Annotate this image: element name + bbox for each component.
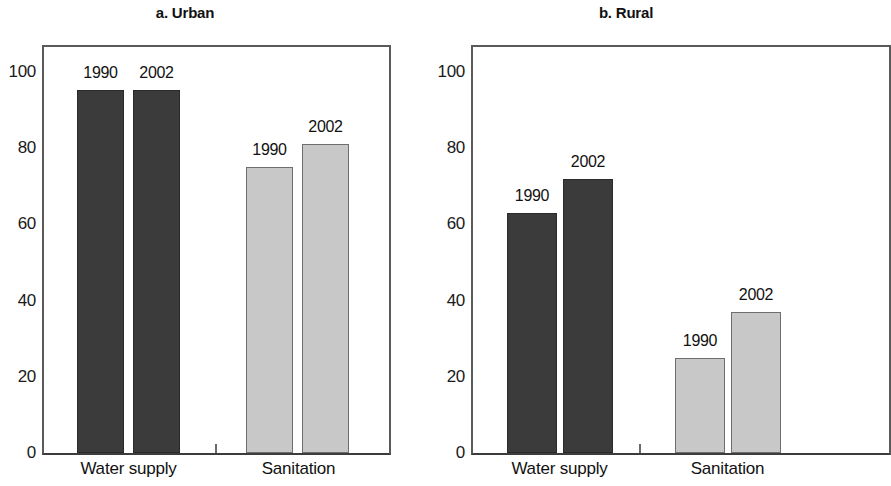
group-label-urban-water-supply: Water supply bbox=[62, 459, 195, 479]
bar-rural-sanitation-1990 bbox=[675, 358, 725, 453]
group-label-rural-sanitation: Sanitation bbox=[661, 459, 794, 479]
bar-label-urban-water-2002: 2002 bbox=[133, 64, 180, 82]
y-tick-label-100: 100 bbox=[9, 62, 36, 82]
bar-label-urban-sanitation-2002: 2002 bbox=[302, 118, 349, 136]
y-tick-label-20: 20 bbox=[447, 367, 465, 387]
bar-rural-water-1990 bbox=[507, 213, 557, 453]
y-tick-label-0: 0 bbox=[27, 443, 36, 463]
group-label-urban-sanitation: Sanitation bbox=[232, 459, 365, 479]
y-tick-label-60: 60 bbox=[447, 214, 465, 234]
bar-label-urban-water-1990: 1990 bbox=[77, 64, 124, 82]
y-tick-label-80: 80 bbox=[18, 138, 36, 158]
y-tick-label-0: 0 bbox=[456, 443, 465, 463]
y-tick-label-40: 40 bbox=[18, 291, 36, 311]
bar-label-rural-sanitation-2002: 2002 bbox=[731, 286, 781, 304]
x-axis-center-tick bbox=[639, 444, 641, 453]
y-axis-labels-rural: 100 80 60 40 20 0 bbox=[429, 0, 465, 486]
bar-urban-sanitation-1990 bbox=[246, 167, 293, 453]
bar-label-rural-sanitation-1990: 1990 bbox=[675, 332, 725, 350]
bar-urban-water-1990 bbox=[77, 90, 124, 453]
bar-rural-water-2002 bbox=[563, 179, 613, 453]
y-tick-label-40: 40 bbox=[447, 291, 465, 311]
y-tick-label-60: 60 bbox=[18, 214, 36, 234]
bar-label-urban-sanitation-1990: 1990 bbox=[246, 141, 293, 159]
y-tick-label-80: 80 bbox=[447, 138, 465, 158]
y-tick-label-100: 100 bbox=[438, 62, 465, 82]
bar-rural-sanitation-2002 bbox=[731, 312, 781, 453]
y-axis-labels-urban: 100 80 60 40 20 0 bbox=[0, 0, 36, 486]
bar-urban-sanitation-2002 bbox=[302, 144, 349, 453]
y-tick-label-20: 20 bbox=[18, 367, 36, 387]
bar-urban-water-2002 bbox=[133, 90, 180, 453]
panel-title-rural: b. Rural bbox=[421, 4, 831, 21]
bar-label-rural-water-2002: 2002 bbox=[563, 153, 613, 171]
chart-panel-urban: a. Urban 100 80 60 40 20 0 1990 2002 Wat… bbox=[0, 0, 410, 486]
bar-label-rural-water-1990: 1990 bbox=[507, 187, 557, 205]
group-label-rural-water-supply: Water supply bbox=[493, 459, 626, 479]
panel-title-urban: a. Urban bbox=[0, 4, 390, 21]
chart-panel-rural: b. Rural 100 80 60 40 20 0 1990 2002 Wat… bbox=[409, 0, 819, 486]
x-axis-center-tick bbox=[215, 444, 217, 453]
